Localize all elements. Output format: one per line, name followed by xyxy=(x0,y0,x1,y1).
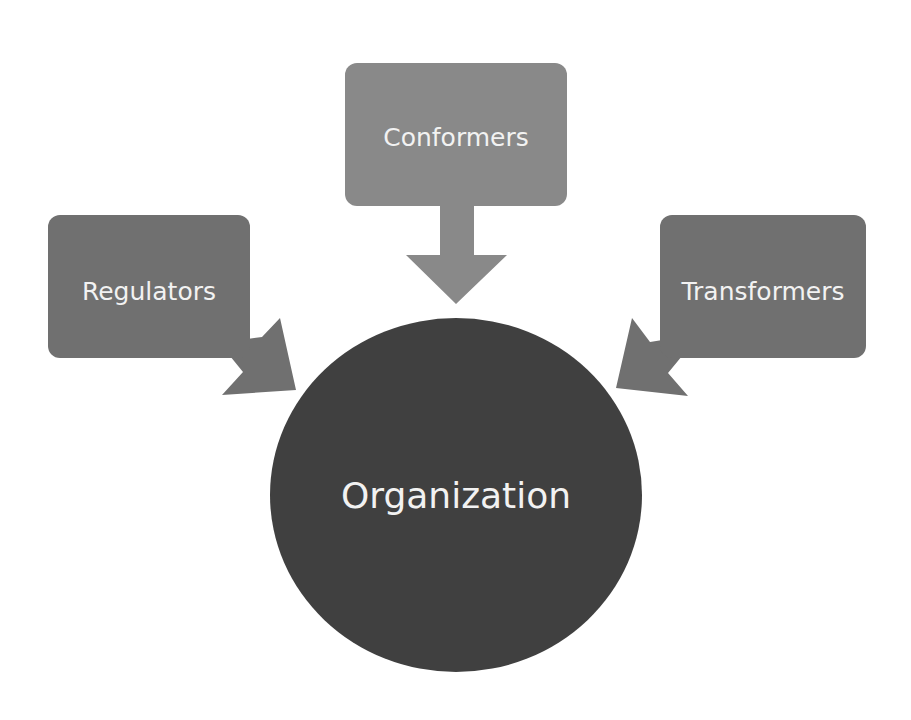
regulators-node: Regulators xyxy=(48,215,296,395)
influence-diagram: Organization Conformers Regulators Trans… xyxy=(0,0,911,720)
conformers-label: Conformers xyxy=(383,123,529,152)
organization-node: Organization xyxy=(270,318,642,672)
regulators-label: Regulators xyxy=(82,277,216,306)
organization-label: Organization xyxy=(341,475,571,516)
conformers-node: Conformers xyxy=(345,63,567,304)
transformers-label: Transformers xyxy=(680,277,844,306)
transformers-node: Transformers xyxy=(616,215,866,396)
conformers-arrow-icon xyxy=(406,200,507,304)
